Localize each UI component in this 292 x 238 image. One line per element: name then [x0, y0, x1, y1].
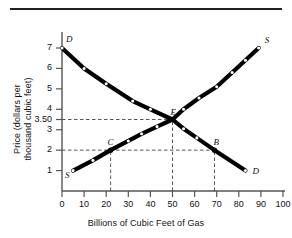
data-point-dot — [127, 139, 130, 142]
data-point-dot — [83, 67, 86, 70]
data-point-dot — [140, 132, 143, 135]
data-point-dot — [155, 125, 158, 128]
y-axis-ticks — [56, 48, 62, 171]
data-point-dot — [257, 46, 260, 49]
y-axis-title-line-1: Price (dollars per — [12, 44, 23, 194]
x-axis-title: Billions of Cubic Feet of Gas — [0, 218, 292, 228]
data-point-dot — [244, 59, 247, 62]
data-point-dot — [244, 169, 247, 172]
data-point-dot — [72, 169, 75, 172]
data-point-dot — [60, 46, 63, 49]
data-point-dot — [195, 136, 198, 139]
annotation-dot-C — [108, 148, 113, 153]
point-label-b: B — [213, 137, 219, 147]
data-point-dot — [149, 108, 152, 111]
curve-demand — [62, 48, 245, 171]
curve-end-label-demand-bottom-right: D — [252, 166, 259, 176]
y-axis-title: Price (dollars per thousand cubic feet) — [12, 44, 34, 194]
point-label-e: E — [171, 107, 177, 117]
annotation-dot-E — [170, 117, 175, 122]
curves — [62, 48, 259, 171]
data-point-dot — [182, 108, 185, 111]
data-point-dot — [182, 127, 185, 130]
guide-lines — [62, 120, 214, 192]
data-point-dot — [105, 82, 108, 85]
curve-supply — [73, 48, 259, 171]
data-point-markers — [60, 46, 260, 172]
data-point-dot — [215, 85, 218, 88]
curve-end-label-supply-bottom-left: S — [65, 170, 70, 180]
data-point-dot — [131, 100, 134, 103]
data-point-dot — [231, 71, 234, 74]
data-point-dot — [197, 97, 200, 100]
annotation-dot-B — [212, 148, 217, 153]
y-axis-title-line-2: thousand cubic feet) — [23, 44, 34, 194]
x-tick-label: 100 — [269, 199, 292, 209]
supply-demand-figure: 1233.504567 0102030405060708090100 DDSS … — [0, 0, 292, 238]
point-label-c: C — [108, 137, 114, 147]
data-point-dot — [91, 159, 94, 162]
x-axis-ticks — [62, 191, 283, 197]
curve-end-label-supply-top-right: S — [265, 35, 270, 45]
curve-end-label-demand-top-left: D — [66, 34, 73, 44]
